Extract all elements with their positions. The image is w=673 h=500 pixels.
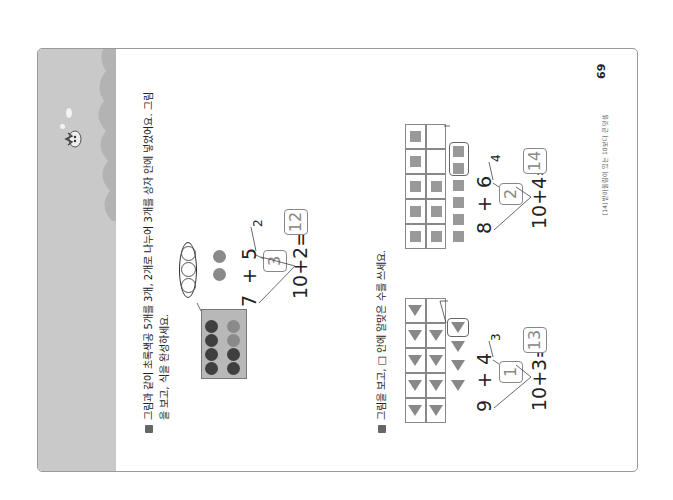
question-marker-icon [145, 425, 153, 433]
square [431, 181, 442, 192]
eq2a-split-box[interactable]: 1 [499, 361, 523, 383]
ball [205, 348, 218, 361]
cloud-decoration [66, 108, 72, 118]
eq1-split-rest: 2 [248, 219, 268, 227]
question-marker-icon [378, 425, 386, 433]
triangle [429, 355, 443, 366]
extra-triangle [451, 380, 465, 391]
eq2b-split-box[interactable]: 2 [499, 183, 523, 205]
problem2-instruction: 그림을 보고, □ 안에 알맞은 수를 쓰세요. [375, 250, 389, 433]
extra-square [453, 197, 464, 208]
triangle [429, 380, 443, 391]
problem1-instruction-cont: 을 보고, 식을 완성하세요. [158, 314, 172, 420]
eq2b-addend-a: 8 [474, 222, 494, 234]
empty-circle [181, 262, 196, 277]
eq1-split-box[interactable]: 3 [263, 250, 287, 272]
ball [227, 348, 240, 361]
decorative-wave [92, 48, 116, 221]
eq1-plus: + [239, 268, 259, 284]
eq1-addend-b: 5 [239, 248, 259, 260]
ball-green [227, 320, 240, 333]
extra-square [453, 180, 464, 191]
square [431, 206, 442, 217]
empty-circle [181, 278, 196, 293]
leftover-ball [213, 268, 226, 281]
extra-square [453, 231, 464, 242]
ball [205, 334, 218, 347]
triangle [408, 405, 422, 416]
eq2a-plus: + [474, 372, 494, 388]
square [410, 131, 421, 142]
square [431, 231, 442, 242]
triangle [408, 380, 422, 391]
eq1-addend-a: 7 [239, 295, 259, 307]
eq2b-plus: + [474, 196, 494, 212]
problem1-instruction: 그림과 같이 초록색공 5개를 3개, 2개로 나누어 3개를 상자 안에 넣었… [142, 92, 156, 433]
eq1-sum: 10+2= [290, 231, 310, 299]
eq2a-split-rest: 3 [486, 333, 506, 341]
empty-circle [181, 246, 196, 261]
eq2b-split-rest: 4 [486, 154, 506, 162]
triangle [408, 355, 422, 366]
footer-chapter: [14] 받아올림이 있는 10보다 큰 덧셈 [600, 114, 609, 216]
mascot-icon [62, 127, 84, 151]
extra-square [453, 214, 464, 225]
eq2a-sum: 10+3= [529, 343, 549, 411]
triangle [408, 305, 422, 316]
square [410, 231, 421, 242]
square [410, 156, 421, 167]
extra-triangle [451, 360, 465, 371]
eq2a-addend-b: 4 [474, 353, 494, 365]
frame-cell [426, 298, 446, 323]
ball [227, 362, 240, 375]
ball [205, 320, 218, 333]
moved-highlight [447, 318, 469, 337]
moved-highlight [449, 142, 469, 176]
square [410, 206, 421, 217]
worksheet-page: 그림과 같이 초록색공 5개를 3개, 2개로 나누어 3개를 상자 안에 넣었… [37, 48, 638, 472]
eq2b-addend-b: 6 [474, 176, 494, 188]
extra-triangle [451, 341, 465, 352]
page-number: 69 [595, 64, 608, 79]
leftover-ball [213, 250, 226, 263]
eq1-answer-box[interactable]: 12 [284, 209, 308, 235]
triangle [429, 330, 443, 341]
eq2a-answer-box[interactable]: 13 [523, 327, 547, 353]
triangle [408, 330, 422, 341]
ball-green [227, 334, 240, 347]
eq2b-answer-box[interactable]: 14 [523, 148, 547, 174]
ball [205, 362, 218, 375]
frame-cell [426, 124, 446, 149]
square [410, 181, 421, 192]
triangle [429, 405, 443, 416]
frame-cell [426, 149, 446, 174]
eq2a-addend-a: 9 [474, 400, 494, 412]
